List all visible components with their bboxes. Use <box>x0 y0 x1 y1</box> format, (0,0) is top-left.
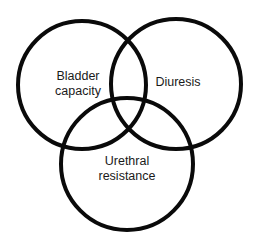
label-line: Bladder <box>55 69 101 84</box>
venn-diagram: Bladder capacity Diuresis Urethral resis… <box>0 0 261 246</box>
label-line: Diuresis <box>155 75 200 90</box>
label-line: resistance <box>99 169 156 184</box>
label-line: Urethral <box>99 154 156 169</box>
label-line: capacity <box>55 84 101 99</box>
label-diuresis: Diuresis <box>155 75 200 90</box>
label-bladder-capacity: Bladder capacity <box>55 69 101 99</box>
label-urethral-resistance: Urethral resistance <box>99 154 156 184</box>
venn-circles <box>0 0 261 246</box>
